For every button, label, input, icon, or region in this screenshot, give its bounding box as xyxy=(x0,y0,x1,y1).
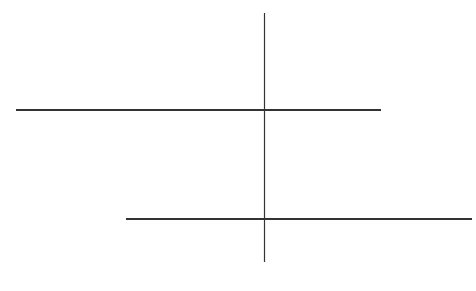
power-diagram xyxy=(0,0,476,291)
